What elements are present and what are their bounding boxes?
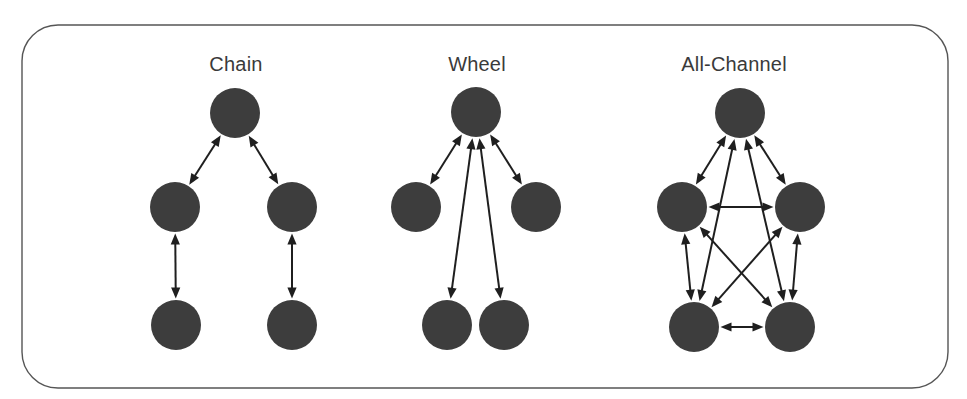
network-node: [210, 88, 260, 138]
panel-label-all-channel: All-Channel: [681, 53, 787, 75]
network-node: [511, 182, 561, 232]
network-node: [422, 300, 472, 350]
network-node: [765, 302, 815, 352]
panel-label-chain: Chain: [209, 53, 262, 75]
network-node: [479, 300, 529, 350]
network-diagram-figure: ChainWheelAll-Channel: [0, 0, 967, 399]
network-node: [715, 88, 765, 138]
network-node: [657, 182, 707, 232]
network-node: [391, 182, 441, 232]
network-node: [151, 300, 201, 350]
network-node: [150, 182, 200, 232]
network-node: [775, 182, 825, 232]
figure-canvas: ChainWheelAll-Channel: [0, 0, 967, 399]
network-node: [267, 182, 317, 232]
network-node: [267, 300, 317, 350]
network-node: [669, 302, 719, 352]
network-node: [451, 87, 501, 137]
panel-label-wheel: Wheel: [448, 53, 506, 75]
